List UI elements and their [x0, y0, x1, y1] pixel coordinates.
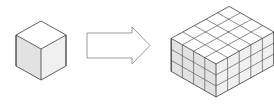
diagram-canvas: [0, 0, 274, 106]
arrow-shape: [87, 27, 150, 64]
unit-cube: [16, 21, 66, 80]
cube-scaling-diagram: [0, 0, 274, 106]
cube-block: [171, 6, 274, 97]
right-arrow: [87, 27, 150, 64]
